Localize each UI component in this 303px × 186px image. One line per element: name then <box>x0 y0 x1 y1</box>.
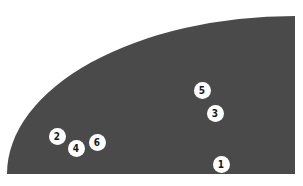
marker-6: 6 <box>89 134 106 151</box>
marker-5: 5 <box>194 82 211 99</box>
marker-4: 4 <box>68 140 85 157</box>
marker-3: 3 <box>207 105 224 122</box>
marker-1: 1 <box>213 156 230 173</box>
field-diagram: 1 2 3 4 5 6 <box>0 0 303 186</box>
quarter-field-shape <box>0 0 303 186</box>
marker-2: 2 <box>49 128 66 145</box>
